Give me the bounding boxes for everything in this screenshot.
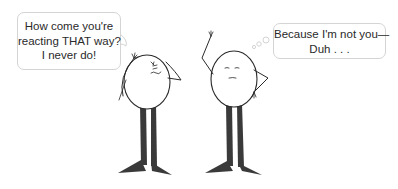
- bubble-line: I never do!: [18, 48, 120, 63]
- left-egg-figure: [118, 53, 181, 175]
- bubble-line: reacting THAT way?: [18, 34, 120, 49]
- right-egg-figure: [202, 31, 268, 175]
- bubble-line: Duh . . .: [274, 42, 385, 57]
- right-thought-bubble: Because I'm not you— Duh . . .: [273, 23, 386, 59]
- bubble-line: Because I'm not you—: [274, 27, 385, 42]
- bubble-line: How come you're: [18, 19, 120, 34]
- thought-dots: [252, 37, 269, 49]
- left-speech-bubble: How come you're reacting THAT way? I nev…: [17, 12, 121, 70]
